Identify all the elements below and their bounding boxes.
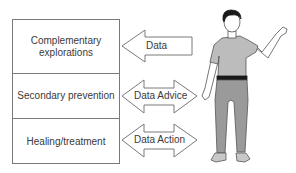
person-icon [202, 10, 287, 162]
arrow-label-data-action: Data Action [134, 134, 185, 145]
arrow-label-data: Data [146, 40, 167, 51]
arrow-label-data-advice: Data Advice [134, 90, 187, 101]
